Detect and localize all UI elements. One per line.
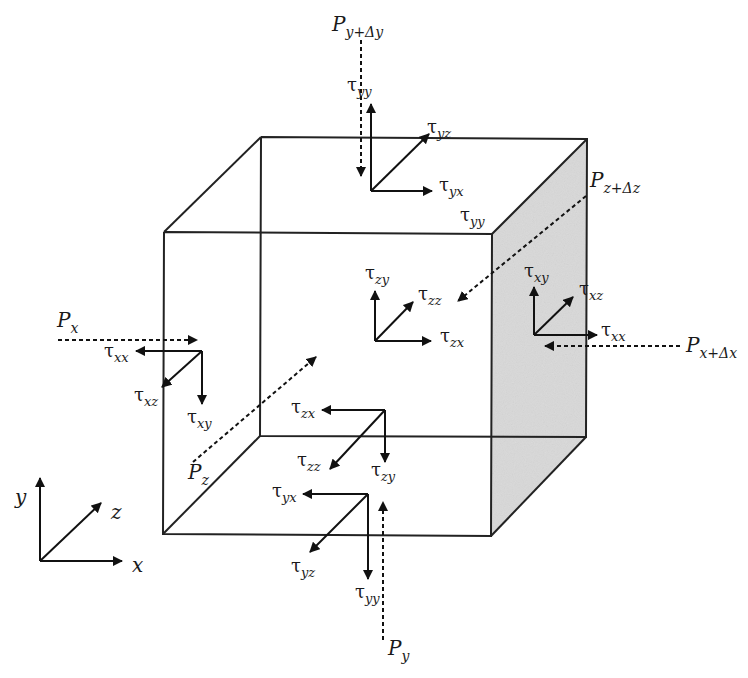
label-sub: xy (534, 270, 549, 285)
label-sub: zx (301, 406, 315, 421)
label-tau-zy-front: τzy (365, 264, 389, 282)
label-sub: zz (428, 293, 442, 308)
label-tau-xy-right: τxy (524, 262, 549, 280)
label-base: τ (104, 340, 114, 361)
label-p-y: Py (388, 638, 409, 658)
label-tau-yz-top: τyz (427, 118, 451, 136)
label-base: τ (347, 74, 357, 95)
label-base: τ (291, 396, 301, 417)
label-sub: yy (365, 591, 380, 606)
label-base: τ (297, 449, 307, 470)
label-base: τ (579, 278, 589, 299)
label-sub: yx (449, 184, 464, 199)
label-base: τ (355, 581, 365, 602)
label-sub: yy (357, 84, 372, 99)
label-p-x-plus-dx: Px+Δx (686, 335, 737, 355)
label-base: τ (439, 174, 449, 195)
label-base: τ (371, 459, 381, 480)
label-tau-zy-back: τzy (371, 461, 395, 479)
label-sub: zy (375, 272, 389, 287)
label-base: τ (440, 325, 450, 346)
label-tau-yy-bottom: τyy (355, 583, 380, 601)
axis-label-z: z (111, 502, 122, 522)
label-tau-zx-back: τzx (291, 398, 315, 416)
label-tau-yy-top-outer: τyy (347, 76, 372, 94)
label-sub: xx (611, 329, 626, 344)
label-base: τ (427, 116, 437, 137)
label-sub: x+Δx (699, 345, 737, 361)
label-sub: z (201, 472, 208, 488)
label-base: τ (272, 480, 282, 501)
label-tau-xy-left: τxy (187, 408, 212, 426)
label-base: τ (291, 555, 301, 576)
shaded-right-face (491, 139, 587, 536)
label-sub: zz (307, 459, 321, 474)
label-sub: zx (450, 335, 464, 350)
label-base: τ (524, 260, 534, 281)
label-tau-xx-left: τxx (104, 342, 129, 360)
label-tau-xz-right: τxz (579, 280, 603, 298)
label-base: P (188, 460, 201, 484)
label-base: P (332, 12, 345, 36)
coordinate-axes (40, 478, 122, 561)
label-base: P (57, 308, 70, 332)
label-sub: yz (301, 565, 315, 580)
label-base: τ (418, 283, 428, 304)
label-sub: xz (144, 394, 158, 409)
label-p-y-plus-dy: Py+Δy (332, 14, 383, 34)
label-sub: zy (381, 469, 395, 484)
label-tau-zx-front: τzx (440, 327, 464, 345)
label-p-x: Px (57, 310, 78, 330)
label-p-z-plus-dz: Pz+Δz (590, 170, 640, 190)
label-sub: xz (589, 288, 603, 303)
label-base: τ (134, 384, 144, 405)
label-sub: x (70, 320, 78, 336)
label-tau-zz-back: τzz (297, 451, 321, 469)
label-base: τ (460, 204, 470, 225)
label-p-z: Pz (188, 462, 209, 482)
label-tau-yx-top: τyx (439, 176, 464, 194)
axis-label-x: x (132, 555, 143, 575)
label-base: P (388, 636, 401, 660)
label-sub: yz (437, 126, 451, 141)
label-sub: z+Δz (603, 180, 640, 196)
label-tau-xx-right: τxx (601, 321, 626, 339)
label-sub: yx (282, 490, 297, 505)
label-tau-yz-bottom: τyz (291, 557, 315, 575)
label-sub: y (401, 648, 409, 664)
label-sub: xy (197, 416, 212, 431)
label-base: τ (187, 406, 197, 427)
axis-label-y: y (15, 487, 26, 507)
label-tau-yx-bottom: τyx (272, 482, 297, 500)
label-tau-zz-front: τzz (418, 285, 442, 303)
stress-cube-diagram (0, 0, 748, 678)
label-sub: yy (470, 214, 485, 229)
label-sub: xx (114, 350, 129, 365)
label-base: τ (601, 319, 611, 340)
label-base: P (686, 333, 699, 357)
label-sub: y+Δy (345, 24, 383, 40)
label-base: τ (365, 262, 375, 283)
label-tau-xz-left: τxz (134, 386, 158, 404)
label-tau-yy-top-inner: τyy (460, 206, 485, 224)
label-base: P (590, 168, 603, 192)
